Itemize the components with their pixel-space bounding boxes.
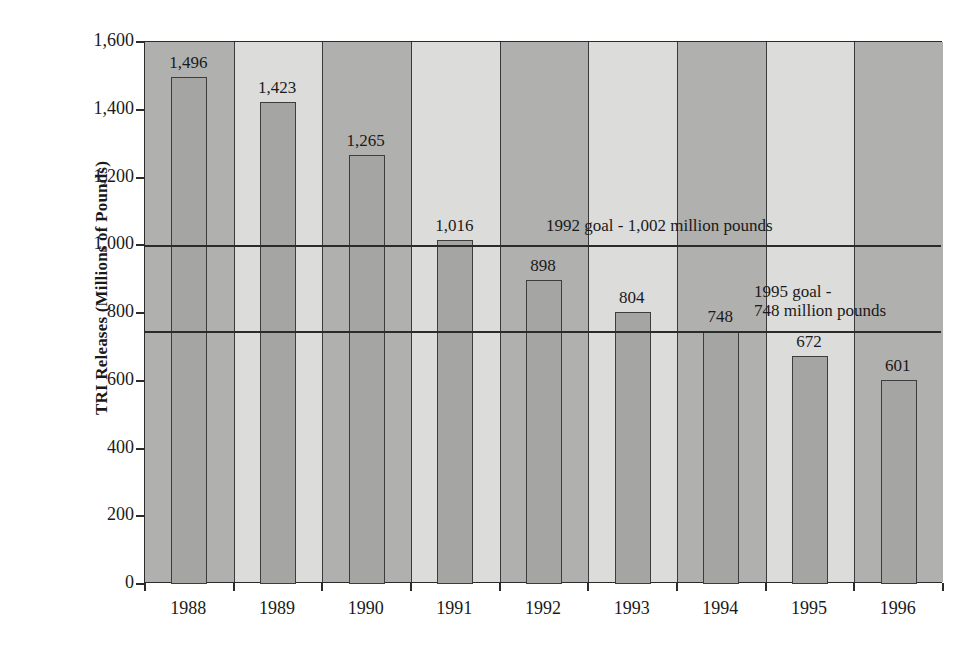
bar-value-label-1995: 672 xyxy=(764,333,854,350)
bar-1996 xyxy=(881,380,917,584)
y-tick-mark-800 xyxy=(136,312,144,314)
y-tick-label-800: 800 xyxy=(4,302,134,320)
bar-value-label-1988: 1,496 xyxy=(143,54,233,71)
band-separator xyxy=(411,42,412,582)
y-tick-mark-600 xyxy=(136,380,144,382)
x-tick-mark-8 xyxy=(853,583,855,591)
band-separator xyxy=(234,42,235,582)
bar-1990 xyxy=(349,155,385,584)
bar-1995 xyxy=(792,356,828,584)
goal-1992-line xyxy=(145,245,941,247)
y-tick-mark-200 xyxy=(136,515,144,517)
bar-chart-figure: TRI Releases (Millions of Pounds) 020040… xyxy=(0,0,978,645)
band-separator xyxy=(322,42,323,582)
bar-1993 xyxy=(615,312,651,584)
bar-value-label-1991: 1,016 xyxy=(409,217,499,234)
x-tick-mark-1 xyxy=(233,583,235,591)
x-tick-mark-4 xyxy=(499,583,501,591)
bar-value-label-1989: 1,423 xyxy=(232,79,322,96)
x-tick-mark-7 xyxy=(765,583,767,591)
y-tick-label-0: 0 xyxy=(4,573,134,591)
y-tick-label-200: 200 xyxy=(4,505,134,523)
goal-1995-label-line-1: 1995 goal - xyxy=(754,282,886,302)
x-tick-label-1996: 1996 xyxy=(848,599,948,617)
band-separator xyxy=(500,42,501,582)
bar-1994 xyxy=(703,331,739,584)
y-tick-label-1400: 1,400 xyxy=(4,99,134,117)
x-tick-mark-5 xyxy=(587,583,589,591)
x-tick-label-1989: 1989 xyxy=(227,599,327,617)
bar-value-label-1992: 898 xyxy=(498,257,588,274)
x-tick-label-1995: 1995 xyxy=(759,599,859,617)
y-tick-label-1600: 1,600 xyxy=(4,31,134,49)
x-tick-label-1990: 1990 xyxy=(316,599,416,617)
y-tick-label-1200: 1,200 xyxy=(4,167,134,185)
goal-1992-label: 1992 goal - 1,002 million pounds xyxy=(546,216,773,236)
bar-1992 xyxy=(526,280,562,584)
x-tick-mark-0 xyxy=(144,583,146,591)
y-tick-mark-1000 xyxy=(136,244,144,246)
x-tick-label-1994: 1994 xyxy=(670,599,770,617)
goal-1995-label: 1995 goal -748 million pounds xyxy=(754,282,886,321)
bar-value-label-1996: 601 xyxy=(853,357,943,374)
goal-1995-label-line-2: 748 million pounds xyxy=(754,301,886,321)
bar-value-label-1990: 1,265 xyxy=(321,132,411,149)
goal-1992-label-line-1: 1992 goal - 1,002 million pounds xyxy=(546,216,773,236)
band-separator xyxy=(588,42,589,582)
x-tick-mark-6 xyxy=(676,583,678,591)
x-tick-label-1991: 1991 xyxy=(404,599,504,617)
bar-value-label-1993: 804 xyxy=(587,289,677,306)
y-axis-title: TRI Releases (Millions of Pounds) xyxy=(92,108,112,468)
x-tick-mark-2 xyxy=(321,583,323,591)
y-tick-label-400: 400 xyxy=(4,438,134,456)
y-tick-mark-400 xyxy=(136,448,144,450)
y-tick-label-1000: 1,000 xyxy=(4,234,134,252)
x-tick-mark-9 xyxy=(942,583,944,591)
y-tick-mark-1200 xyxy=(136,177,144,179)
y-tick-mark-0 xyxy=(136,583,144,585)
x-tick-label-1988: 1988 xyxy=(138,599,238,617)
x-tick-label-1993: 1993 xyxy=(582,599,682,617)
x-tick-label-1992: 1992 xyxy=(493,599,593,617)
y-tick-label-600: 600 xyxy=(4,370,134,388)
y-tick-mark-1400 xyxy=(136,109,144,111)
bar-1991 xyxy=(437,240,473,584)
bar-value-label-1994: 748 xyxy=(675,308,765,325)
y-tick-mark-1600 xyxy=(136,41,144,43)
bar-1989 xyxy=(260,102,296,584)
x-tick-mark-3 xyxy=(410,583,412,591)
